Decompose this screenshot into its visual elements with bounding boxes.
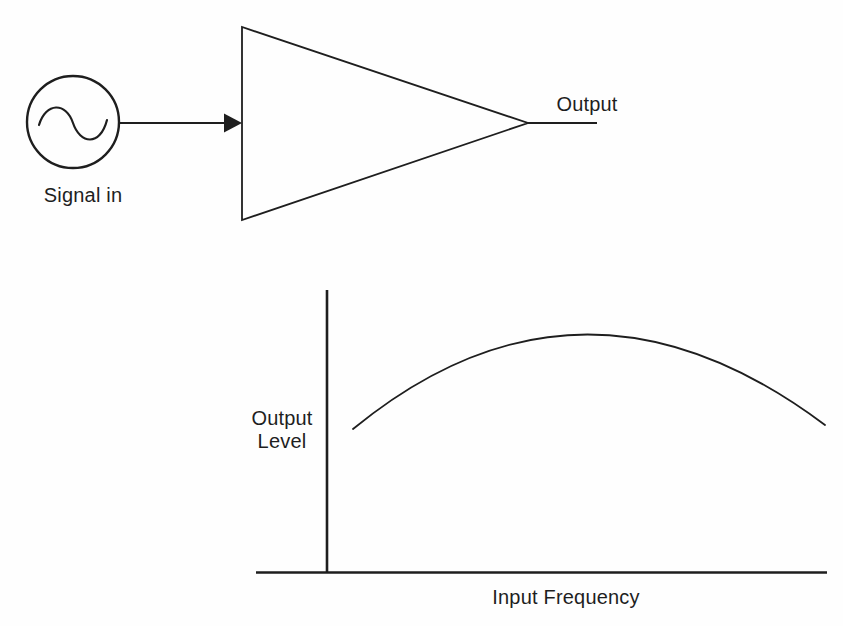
signal-in-label: Signal in bbox=[44, 184, 123, 206]
arrowhead-icon bbox=[224, 114, 242, 133]
y-axis-label: Output Level bbox=[251, 407, 312, 452]
y-axis-label-line2: Level bbox=[258, 430, 307, 452]
amplifier-response-figure: Signal in Output Output L bbox=[0, 0, 843, 626]
block-diagram: Signal in Output bbox=[27, 27, 618, 220]
response-curve bbox=[353, 334, 825, 429]
amplifier-triangle bbox=[242, 27, 528, 220]
input-arrow bbox=[120, 114, 242, 133]
response-graph: Output Level Input Frequency bbox=[251, 290, 827, 608]
x-axis-label: Input Frequency bbox=[492, 586, 640, 608]
sine-wave-icon bbox=[39, 107, 107, 139]
y-axis-label-line1: Output bbox=[251, 407, 312, 429]
figure-canvas: Signal in Output Output L bbox=[0, 0, 843, 626]
signal-source: Signal in bbox=[27, 76, 122, 206]
output-label: Output bbox=[556, 93, 617, 115]
